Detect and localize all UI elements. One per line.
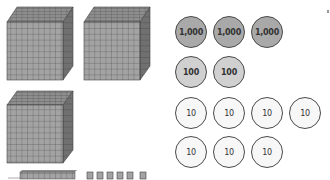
disk-thousand: 1,000 bbox=[213, 16, 245, 48]
thousand-cube bbox=[7, 7, 73, 80]
disk-ten: 10 bbox=[289, 97, 321, 129]
thousand-cube bbox=[84, 7, 150, 80]
disk-thousand: 1,000 bbox=[251, 16, 283, 48]
disk-ten: 10 bbox=[175, 136, 207, 168]
disk-hundred: 100 bbox=[175, 56, 207, 88]
disk-ten: 10 bbox=[175, 97, 207, 129]
disk-ten: 10 bbox=[213, 136, 245, 168]
artifact-mark bbox=[327, 10, 329, 13]
thousand-cube bbox=[7, 91, 73, 163]
disk-ten: 10 bbox=[251, 136, 283, 168]
disk-ten: 10 bbox=[213, 97, 245, 129]
unit-cubes bbox=[87, 172, 146, 179]
disk-hundred: 100 bbox=[213, 56, 245, 88]
disk-thousand: 1,000 bbox=[175, 16, 207, 48]
ten-rod bbox=[8, 170, 77, 179]
disk-ten: 10 bbox=[251, 97, 283, 129]
